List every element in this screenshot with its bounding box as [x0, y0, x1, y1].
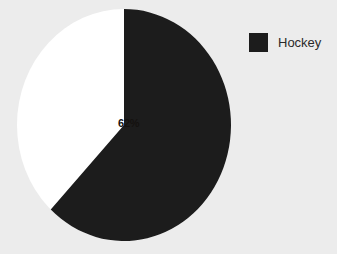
legend-swatch-icon	[249, 33, 268, 52]
pie-slice-label-hockey: 62%	[118, 116, 139, 130]
legend-item-hockey[interactable]: Hockey	[249, 33, 321, 52]
pie-chart-figure: 62% Hockey	[0, 0, 337, 254]
legend: Hockey	[249, 33, 321, 52]
legend-item-label: Hockey	[278, 33, 321, 52]
